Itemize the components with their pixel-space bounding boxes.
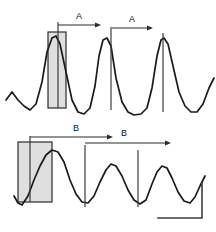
upper-arrow-head-2 bbox=[147, 25, 153, 30]
upper-trace-panel: A A bbox=[6, 11, 214, 115]
upper-interval-arrow-1 bbox=[58, 22, 101, 27]
upper-arrow-head-1 bbox=[95, 22, 101, 27]
upper-trace-line bbox=[6, 36, 214, 115]
lower-interval-label-1: B bbox=[73, 123, 79, 133]
scale-bar bbox=[158, 183, 202, 218]
waveform-figure-svg: A A B B bbox=[0, 0, 216, 232]
lower-arrow-head-2 bbox=[165, 140, 171, 145]
lower-arrow-head-1 bbox=[107, 134, 113, 139]
figure-container: A A B B bbox=[0, 0, 216, 232]
upper-interval-label-2: A bbox=[129, 14, 135, 24]
lower-interval-arrow-2 bbox=[85, 140, 171, 145]
lower-interval-label-2: B bbox=[121, 128, 127, 138]
upper-interval-arrow-2 bbox=[112, 25, 153, 30]
lower-interval-arrow-1 bbox=[30, 134, 113, 139]
upper-interval-label-1: A bbox=[76, 11, 82, 21]
lower-trace-panel: B B bbox=[14, 123, 205, 207]
lower-highlight-box bbox=[18, 142, 52, 202]
